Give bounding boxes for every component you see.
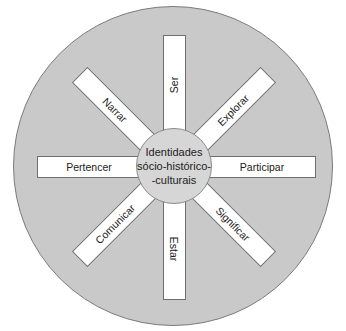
hub-label-line-1: Identidades [146,145,203,159]
spoke-label: Ser [169,77,181,93]
spoke-label: Estar [169,237,181,262]
center-hub: Identidades sócio-histórico- -culturais [136,128,212,204]
hub-label-line-3: -culturais [152,173,197,187]
spoke-label: Participar [240,161,284,173]
spoke-label: Pertencer [66,161,112,173]
spoke-ser: Ser [163,35,186,135]
spoke-estar: Estar [163,198,186,300]
hub-label-line-2: sócio-histórico- [137,159,211,173]
identity-wheel-diagram: Ser Estar Pertencer Participar Narrar Ex… [0,0,346,331]
spoke-participar: Participar [208,156,316,178]
spoke-pertencer: Pertencer [37,156,141,178]
